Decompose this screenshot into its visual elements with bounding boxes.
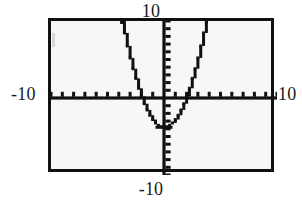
- x-min-label: -10: [11, 85, 36, 103]
- y-min-label: -10: [0, 180, 302, 198]
- plot-area: [51, 21, 277, 175]
- x-max-label: 10: [278, 85, 296, 103]
- calculator-screenshot: 10 -10 10 -10: [0, 0, 302, 210]
- axes-group: [51, 21, 277, 175]
- graphing-window[interactable]: [48, 18, 274, 172]
